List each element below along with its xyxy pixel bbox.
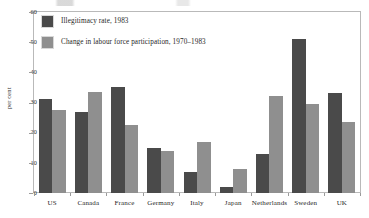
bar-group	[256, 12, 283, 193]
legend-swatch-illegitimacy-rate	[41, 15, 54, 28]
x-tick-mark	[143, 193, 144, 196]
x-tick-label: France	[106, 199, 142, 207]
bar	[147, 148, 161, 193]
bar	[161, 151, 175, 193]
legend-entry: Change in labour force participation, 19…	[41, 36, 241, 57]
y-tick-mark	[29, 133, 33, 134]
y-tick-mark	[29, 193, 33, 194]
legend-label-labour-force-change: Change in labour force participation, 19…	[61, 38, 206, 47]
bar-group	[292, 12, 319, 193]
x-tick-mark	[360, 193, 361, 196]
x-tick-label: Sweden	[288, 199, 324, 207]
x-tick-mark	[324, 193, 325, 196]
bar	[52, 110, 66, 193]
legend-swatch-labour-force-change	[41, 36, 54, 49]
bar-group	[328, 12, 355, 193]
bar	[111, 87, 125, 193]
y-tick-mark	[29, 42, 33, 43]
x-tick-label: Japan	[215, 199, 251, 207]
bar	[184, 172, 198, 193]
x-tick-mark	[251, 193, 252, 196]
bar	[39, 99, 53, 193]
bar	[197, 142, 211, 193]
x-tick-mark	[70, 193, 71, 196]
bar	[233, 169, 247, 193]
bar	[306, 104, 320, 193]
bar-chart: per cent 6050403020100 USCanadaFranceGer…	[0, 0, 369, 218]
x-tick-label: Canada	[70, 199, 106, 207]
legend-label-illegitimacy-rate: Illegitimacy rate, 1983	[61, 17, 129, 26]
y-tick-mark	[29, 103, 33, 104]
x-tick-mark	[215, 193, 216, 196]
x-tick-label: Germany	[143, 199, 179, 207]
bar	[75, 112, 89, 193]
y-tick-mark	[29, 163, 33, 164]
bar	[220, 187, 234, 193]
bar	[342, 122, 356, 193]
x-tick-label: US	[34, 199, 70, 207]
x-tick-label: Netherlands	[251, 199, 287, 207]
x-tick-label: UK	[324, 199, 360, 207]
y-axis-label: per cent	[6, 75, 12, 121]
x-tick-label: Italy	[179, 199, 215, 207]
chart-legend: Illegitimacy rate, 1983 Change in labour…	[41, 15, 241, 57]
bar	[292, 39, 306, 193]
bar	[269, 96, 283, 193]
x-tick-mark	[106, 193, 107, 196]
bar	[88, 92, 102, 193]
x-tick-mark	[34, 193, 35, 196]
bar	[328, 93, 342, 193]
y-tick-mark	[29, 12, 33, 13]
legend-entry: Illegitimacy rate, 1983	[41, 15, 241, 36]
x-tick-mark	[288, 193, 289, 196]
y-tick-mark	[29, 72, 33, 73]
bar	[256, 154, 270, 193]
x-tick-mark	[179, 193, 180, 196]
bar	[125, 125, 139, 193]
